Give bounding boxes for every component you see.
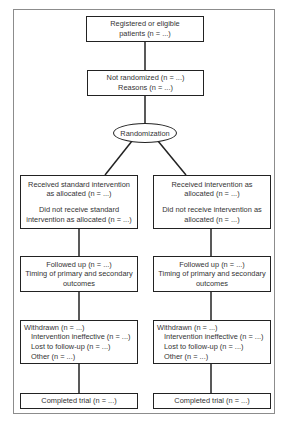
left-allocation-not-received-line-2: intervention as allocated (n = ...): [26, 215, 131, 225]
not-randomized-line-2: Reasons (n = ...): [118, 83, 173, 93]
registered-patients-box: Registered or eligible patients (n = ...…: [86, 16, 204, 42]
registered-line-1: Registered or eligible: [110, 19, 179, 29]
right-followup-line-3: outcomes: [196, 279, 228, 289]
connector-randomization-to-right-arm: [158, 141, 186, 175]
right-withdrawn-item-lost: Lost to follow-up (n = ...): [157, 342, 244, 352]
right-allocation-received-line-1: Received intervention as: [172, 180, 253, 190]
right-followup-box: Followed up (n = ...) Timing of primary …: [153, 256, 271, 292]
left-withdrawn-box: Withdrawn (n = ...) Intervention ineffec…: [20, 320, 138, 364]
randomization-node: Randomization: [113, 123, 177, 143]
left-withdrawn-item-ineffective: Intervention ineffective (n = ...): [24, 332, 131, 342]
randomization-label: Randomization: [120, 129, 169, 138]
right-allocation-box: Received intervention as allocated (n = …: [153, 175, 271, 229]
left-withdrawn-heading: Withdrawn (n = ...): [24, 323, 85, 333]
left-allocation-not-received-line-1: Did not receive standard: [39, 205, 119, 215]
left-allocation-box: Received standard intervention as alloca…: [20, 175, 138, 229]
left-allocation-received-line-1: Received standard intervention: [28, 180, 130, 190]
right-completed-label: Completed trial (n = ...): [174, 396, 249, 406]
left-withdrawn-item-lost: Lost to follow-up (n = ...): [24, 342, 111, 352]
right-allocation-not-received-line-2: allocated (n = ...): [184, 215, 239, 225]
left-allocation-received-line-2: as allocated (n = ...): [46, 189, 111, 199]
connector-randomization-to-left-arm: [105, 141, 132, 175]
right-followup-line-2: Timing of primary and secondary: [158, 269, 265, 279]
registered-line-2: patients (n = ...): [119, 29, 171, 39]
left-followup-box: Followed up (n = ...) Timing of primary …: [20, 256, 138, 292]
right-allocation-received-line-2: allocated (n = ...): [184, 189, 239, 199]
right-withdrawn-item-other: Other (n = ...): [157, 352, 208, 362]
right-allocation-not-received-line-1: Did not receive intervention as: [162, 205, 261, 215]
right-withdrawn-heading: Withdrawn (n = ...): [157, 323, 218, 333]
right-followup-line-1: Followed up (n = ...): [179, 260, 245, 270]
right-completed-box: Completed trial (n = ...): [153, 393, 271, 409]
right-withdrawn-box: Withdrawn (n = ...) Intervention ineffec…: [153, 320, 271, 364]
left-followup-line-1: Followed up (n = ...): [46, 260, 112, 270]
right-withdrawn-item-ineffective: Intervention ineffective (n = ...): [157, 332, 264, 342]
left-completed-box: Completed trial (n = ...): [20, 393, 138, 409]
not-randomized-line-1: Not randomized (n = ...): [107, 73, 185, 83]
left-followup-line-2: Timing of primary and secondary: [25, 269, 132, 279]
left-completed-label: Completed trial (n = ...): [41, 396, 116, 406]
left-withdrawn-item-other: Other (n = ...): [24, 352, 75, 362]
left-followup-line-3: outcomes: [63, 279, 95, 289]
not-randomized-box: Not randomized (n = ...) Reasons (n = ..…: [87, 70, 204, 96]
